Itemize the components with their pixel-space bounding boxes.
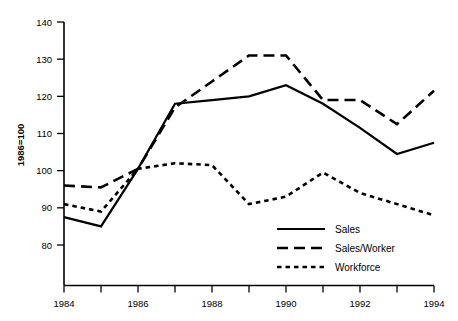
x-tick-label: 1994 xyxy=(423,298,444,309)
x-tick-label: 1986 xyxy=(127,298,148,309)
y-axis: 8090100110120130140 xyxy=(36,17,64,286)
x-tick-label: 1988 xyxy=(201,298,222,309)
y-tick-group: 8090100110120130140 xyxy=(36,17,64,251)
chart-legend: SalesSales/WorkerWorkforce xyxy=(277,224,396,273)
x-tick-group: 198419861988199019921994 xyxy=(53,286,444,310)
y-tick-label: 90 xyxy=(41,202,52,213)
series-line-workforce xyxy=(64,163,434,215)
series-group xyxy=(64,55,434,226)
x-tick-label: 1990 xyxy=(275,298,296,309)
x-tick-label: 1984 xyxy=(53,298,74,309)
x-tick-label: 1992 xyxy=(349,298,370,309)
legend-label-sales: Sales xyxy=(335,224,360,235)
series-line-sales-worker xyxy=(64,55,434,187)
y-tick-label: 140 xyxy=(36,17,52,28)
legend-label-workforce: Workforce xyxy=(335,262,381,273)
x-axis: 198419861988199019921994 xyxy=(53,286,444,310)
line-chart: 8090100110120130140 19841986198819901992… xyxy=(0,0,458,321)
y-tick-label: 80 xyxy=(41,240,52,251)
y-tick-label: 110 xyxy=(37,128,52,139)
y-tick-label: 120 xyxy=(36,91,52,102)
y-axis-title: 1986=100 xyxy=(15,124,26,167)
y-tick-label: 130 xyxy=(36,54,52,65)
legend-label-sales-worker: Sales/Worker xyxy=(335,243,396,254)
chart-svg: 8090100110120130140 19841986198819901992… xyxy=(0,0,458,321)
y-axis-title-text: 1986=100 xyxy=(15,124,26,167)
y-tick-label: 100 xyxy=(36,165,52,176)
